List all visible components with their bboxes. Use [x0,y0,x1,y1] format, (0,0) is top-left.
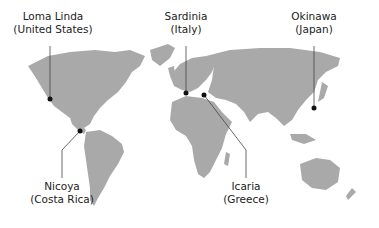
location-name: Okinawa [291,10,336,23]
marker-nicoya [78,129,83,134]
location-country: (Costa Rica) [30,193,94,206]
label-nicoya: Nicoya (Costa Rica) [30,180,94,206]
asia [206,48,340,126]
label-loma-linda: Loma Linda (United States) [13,10,92,36]
marker-icaria [202,93,207,98]
madagascar [224,152,230,166]
marker-sardinia [184,91,189,96]
location-name: Nicoya [30,180,94,193]
japan [318,82,328,102]
indonesia [290,134,316,144]
location-country: (Greece) [223,193,269,206]
greenland [150,44,175,66]
location-name: Sardinia [165,10,208,23]
north-america [28,50,145,128]
location-name: Icaria [223,180,269,193]
location-country: (Japan) [291,23,336,36]
location-country: (Italy) [165,23,208,36]
africa [170,96,232,178]
location-country: (United States) [13,23,92,36]
label-sardinia: Sardinia (Italy) [165,10,208,36]
marker-okinawa [312,106,317,111]
label-icaria: Icaria (Greece) [223,180,269,206]
marker-loma-linda [48,97,53,102]
australia [300,158,340,190]
new-zealand [346,188,356,200]
location-name: Loma Linda [13,10,92,23]
label-okinawa: Okinawa (Japan) [291,10,336,36]
leader-line-nicoya [62,131,80,178]
europe [170,56,216,92]
